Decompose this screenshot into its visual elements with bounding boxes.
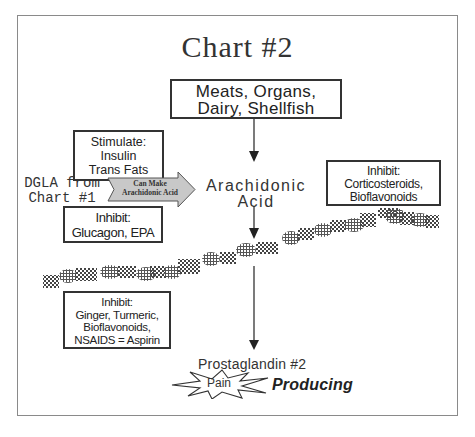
source-line-1: Meats, Organs, — [172, 83, 340, 100]
inhibit-ginger-box: Inhibit: Ginger, Turmeric, Bioflavonoids… — [63, 291, 171, 349]
acid-line-2: Acid — [196, 194, 316, 210]
acid-line-1: Arachidonic — [196, 178, 316, 194]
inhibit-corticosteroids-box: Inhibit: Corticosteroids, Bioflavonoids — [326, 160, 441, 206]
pain-label: Pain — [207, 376, 231, 390]
inhibit-heading: Inhibit: — [65, 210, 161, 225]
inhibit-line-1: Glucagon, EPA — [65, 225, 161, 240]
conversion-line-2: Arachidonic Acid — [112, 189, 188, 198]
stimulate-heading: Stimulate: — [75, 135, 162, 149]
inhibit-line-2: Bioflavonoids, — [65, 321, 169, 334]
arrowhead-icon — [249, 151, 259, 162]
inhibit-line-3: NSAIDS = Aspirin — [65, 334, 169, 347]
source-line-2: Dairy, Shellfish — [172, 100, 340, 117]
producing-label: Producing — [272, 376, 353, 394]
dgla-line-1: DGLA from — [20, 176, 104, 191]
source-foods-box: Meats, Organs, Dairy, Shellfish — [170, 79, 342, 119]
dgla-label: DGLA from Chart #1 — [20, 176, 104, 206]
inhibit-glucagon-box: Inhibit: Glucagon, EPA — [63, 206, 163, 243]
inhibit-line-2: Bioflavonoids — [328, 191, 439, 204]
arachidonic-acid-node: Arachidonic Acid — [196, 178, 316, 210]
stimulate-line-1: Insulin — [75, 149, 162, 163]
inhibit-heading: Inhibit: — [65, 296, 169, 309]
inhibit-line-1: Ginger, Turmeric, — [65, 309, 169, 322]
dgla-line-2: Chart #1 — [20, 191, 104, 206]
conversion-arrow-label: Can Make Arachidonic Acid — [112, 180, 188, 197]
